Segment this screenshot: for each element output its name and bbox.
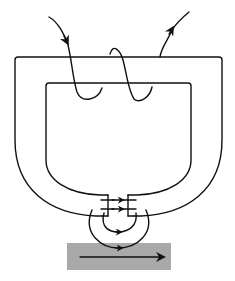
core-inner-outline — [46, 83, 191, 195]
diagram-canvas — [0, 0, 235, 281]
